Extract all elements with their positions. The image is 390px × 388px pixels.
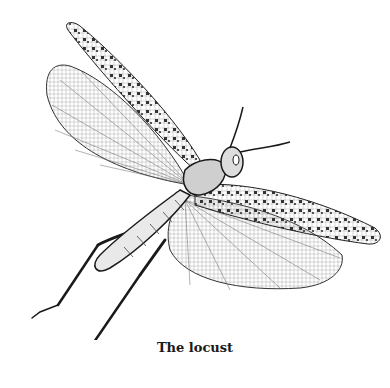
figure: The locust (0, 0, 390, 388)
head (221, 147, 243, 177)
antennae (230, 107, 290, 152)
figure-caption: The locust (0, 340, 390, 355)
locust-illustration (0, 0, 390, 340)
